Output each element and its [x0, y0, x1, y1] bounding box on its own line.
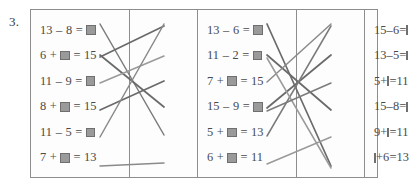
answer-box[interactable] [406, 51, 408, 61]
equation-row[interactable]: 13–5= [365, 49, 376, 63]
connector-gap-left [129, 10, 197, 177]
eq-token: = [75, 125, 82, 140]
eq-token: 11 [40, 125, 52, 140]
equation-row[interactable]: 8+=15 [31, 100, 129, 114]
eq-token: 15 [207, 99, 220, 114]
equation-row[interactable]: 5+=13 [198, 125, 296, 139]
equation-row[interactable]: 13–8= [31, 23, 129, 37]
eq-token: 6 [233, 23, 239, 38]
eq-token: = [243, 99, 250, 114]
equation-row[interactable]: 7+=13 [31, 151, 129, 165]
eq-token: 13 [396, 150, 409, 165]
eq-token: = [389, 74, 396, 89]
connector-gap-right [296, 10, 364, 177]
eq-token: = [399, 48, 406, 63]
equation-list-right: 15–6= 13–5= 5+=11 15–8= 9+=11 +6=13 [365, 10, 376, 177]
eq-token: + [380, 74, 387, 89]
eq-token: = [73, 99, 80, 114]
eq-token: 7 [207, 74, 213, 89]
eq-token: = [399, 99, 406, 114]
equation-row[interactable]: 11–5= [31, 125, 129, 139]
eq-token: – [223, 23, 229, 38]
eq-token: 5 [65, 125, 71, 140]
eq-token: 13 [40, 23, 53, 38]
eq-token: 7 [40, 150, 46, 165]
answer-box[interactable] [86, 76, 96, 86]
eq-token: – [223, 99, 229, 114]
answer-box[interactable] [60, 102, 70, 112]
answer-box[interactable] [227, 76, 237, 86]
eq-token: – [223, 48, 229, 63]
column-right: 15–6= 13–5= 5+=11 15–8= 9+=11 +6=13 [364, 10, 376, 177]
eq-token: = [399, 23, 406, 38]
eq-token: 6 [207, 150, 213, 165]
equation-list-middle: 13–6= 11–2= 7+=15 15–9= 5+=13 6+=11 [198, 10, 296, 177]
equation-row[interactable]: 11–9= [31, 74, 129, 88]
eq-token: 13 [84, 150, 97, 165]
exercise-number: 3. [9, 14, 19, 30]
eq-token: 5 [207, 125, 213, 140]
answer-box[interactable] [227, 128, 237, 138]
eq-token: + [50, 150, 57, 165]
equation-row[interactable]: 11–2= [198, 49, 296, 63]
eq-token: = [240, 74, 247, 89]
eq-token: + [217, 150, 224, 165]
eq-token: + [50, 48, 57, 63]
eq-token: 9 [233, 99, 239, 114]
eq-token: 15 [84, 48, 97, 63]
eq-token: = [75, 74, 82, 89]
answer-box[interactable] [253, 51, 263, 61]
eq-token: 11 [396, 74, 408, 89]
answer-box[interactable] [86, 25, 96, 35]
eq-token: + [217, 74, 224, 89]
eq-token: 13 [251, 125, 264, 140]
equation-row[interactable]: 15–9= [198, 100, 296, 114]
equation-list-left: 13–8= 6+=15 11–9= 8+=15 11–5= 7+=13 [31, 10, 129, 177]
eq-token: 13 [374, 48, 387, 63]
eq-token: 11 [251, 150, 263, 165]
eq-token: 8 [40, 99, 46, 114]
column-middle: 13–6= 11–2= 7+=15 15–9= 5+=13 6+=11 [197, 10, 296, 177]
eq-token: = [243, 23, 250, 38]
eq-token: = [240, 125, 247, 140]
equation-row[interactable]: 13–6= [198, 23, 296, 37]
equation-row[interactable]: 6+=15 [31, 49, 129, 63]
equation-row[interactable]: 6+=11 [198, 151, 296, 165]
eq-token: 13 [207, 23, 220, 38]
eq-token: 15 [374, 23, 387, 38]
matching-frame: 13–8= 6+=15 11–9= 8+=15 11–5= 7+=13 13–6… [30, 9, 378, 178]
answer-box[interactable] [227, 153, 237, 163]
eq-token: + [376, 150, 383, 165]
eq-token: = [73, 150, 80, 165]
equation-row[interactable]: 5+=11 [365, 74, 376, 88]
equation-row[interactable]: 7+=15 [198, 74, 296, 88]
answer-box[interactable] [60, 51, 70, 61]
eq-token: = [240, 150, 247, 165]
answer-box[interactable] [253, 25, 263, 35]
eq-token: + [217, 125, 224, 140]
eq-token: – [56, 74, 62, 89]
column-left: 13–8= 6+=15 11–9= 8+=15 11–5= 7+=13 [31, 10, 129, 177]
eq-token: 8 [66, 23, 72, 38]
answer-box[interactable] [406, 102, 408, 112]
answer-box[interactable] [86, 128, 96, 138]
eq-token: 15 [374, 99, 387, 114]
eq-token: – [56, 125, 62, 140]
eq-token: = [73, 48, 80, 63]
eq-token: 6 [40, 48, 46, 63]
eq-token: = [389, 150, 396, 165]
eq-token: + [50, 99, 57, 114]
answer-box[interactable] [406, 25, 408, 35]
answer-box[interactable] [60, 153, 70, 163]
eq-token: + [380, 125, 387, 140]
answer-box[interactable] [253, 102, 263, 112]
eq-token: 11 [396, 125, 408, 140]
eq-token: 15 [84, 99, 97, 114]
equation-row[interactable]: 9+=11 [365, 125, 376, 139]
equation-row[interactable]: 15–6= [365, 23, 376, 37]
eq-token: 11 [207, 48, 219, 63]
eq-token: = [389, 125, 396, 140]
equation-row[interactable]: +6=13 [365, 151, 376, 165]
equation-row[interactable]: 15–8= [365, 100, 376, 114]
